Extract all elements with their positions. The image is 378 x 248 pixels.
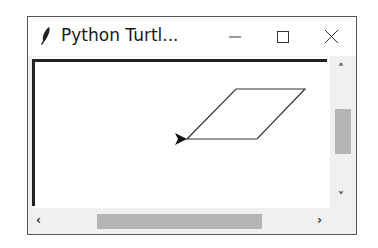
horizontal-scrollbar[interactable]: ‹ › [32,210,330,232]
chevron-down-icon[interactable]: ˅ [338,191,344,203]
close-button[interactable] [311,17,351,56]
chevron-right-icon[interactable]: › [317,214,322,226]
drawing-layer [32,57,330,208]
turtle-canvas[interactable] [32,57,330,208]
close-icon [325,30,338,43]
maximize-icon [277,31,289,43]
minimize-button[interactable] [215,17,255,56]
turtle-arrow-icon [175,133,187,145]
chevron-left-icon[interactable]: ‹ [36,214,41,226]
vertical-scrollbar[interactable]: ˄ ˅ [330,57,356,208]
maximize-button[interactable] [263,17,303,56]
window-title: Python Turtl... [61,25,179,45]
vertical-scroll-thumb[interactable] [335,109,351,154]
turtle-window: Python Turtl... ˄ ˅ ‹ › [27,16,357,235]
horizontal-scroll-thumb[interactable] [97,214,262,229]
feather-icon [41,27,51,45]
chevron-up-icon[interactable]: ˄ [338,63,344,75]
minimize-icon [229,31,241,43]
title-bar[interactable]: Python Turtl... [28,17,356,56]
parallelogram-shape [187,89,305,139]
